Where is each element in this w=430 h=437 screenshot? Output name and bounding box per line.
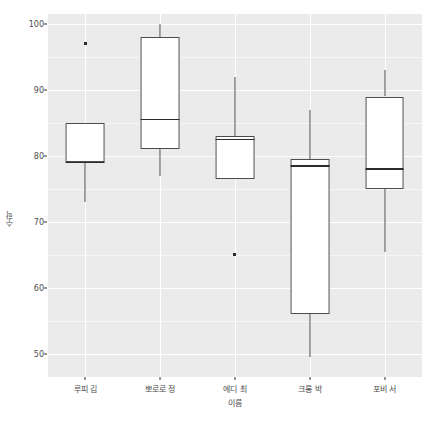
- y-axis-tick-mark: [44, 89, 47, 90]
- boxplot-box: [272, 14, 347, 377]
- boxplot-box: [347, 14, 422, 377]
- x-axis-tick-mark: [384, 377, 385, 380]
- whisker-lower: [85, 163, 86, 203]
- x-axis-tick-mark: [235, 377, 236, 380]
- whisker-lower: [309, 314, 310, 357]
- whisker-lower: [384, 189, 385, 252]
- outlier-point: [233, 253, 236, 256]
- whisker-upper: [384, 70, 385, 96]
- whisker-lower: [160, 149, 161, 175]
- whisker-upper: [309, 110, 310, 160]
- median-line: [216, 139, 255, 141]
- x-axis-tick-mark: [160, 377, 161, 380]
- box-iqr-rect: [365, 97, 404, 189]
- box-iqr-rect: [290, 159, 329, 314]
- median-line: [66, 162, 105, 164]
- y-axis-tick-mark: [44, 353, 47, 354]
- x-axis-tick-mark: [85, 377, 86, 380]
- x-axis-tick-mark: [309, 377, 310, 380]
- median-line: [365, 168, 404, 170]
- boxplot-box: [198, 14, 273, 377]
- whisker-upper: [160, 24, 161, 37]
- y-axis-tick-mark: [44, 23, 47, 24]
- y-axis-tick-label: 50: [34, 349, 44, 358]
- x-axis-title: 이름: [48, 397, 422, 408]
- y-axis-tick-label: 100: [29, 19, 44, 28]
- y-axis-tick-labels: 5060708090100: [14, 0, 44, 437]
- x-axis-tick-label: 뽀로로 정: [145, 383, 176, 394]
- y-axis-tick-label: 80: [34, 151, 44, 160]
- outlier-point: [84, 42, 87, 45]
- box-iqr-rect: [66, 123, 105, 163]
- median-line: [141, 119, 180, 121]
- plot-panel: [48, 14, 422, 377]
- y-axis-tick-mark: [44, 221, 47, 222]
- whisker-upper: [234, 77, 235, 136]
- x-axis-tick-label: 에디 최: [223, 383, 247, 394]
- x-axis-tick-label: 크롱 박: [298, 383, 322, 394]
- y-axis-tick-mark: [44, 155, 47, 156]
- y-axis-tick-mark: [44, 287, 47, 288]
- y-axis-tick-label: 90: [34, 85, 44, 94]
- boxplot-chart: 수학 5060708090100 루피 김뽀로로 정에디 최크롱 박포비 서 이…: [0, 0, 430, 437]
- x-axis-tick-label: 포비 서: [373, 383, 397, 394]
- boxplot-box: [48, 14, 123, 377]
- box-iqr-rect: [141, 37, 180, 149]
- box-iqr-rect: [216, 136, 255, 179]
- boxplot-box: [123, 14, 198, 377]
- y-axis-tick-label: 70: [34, 217, 44, 226]
- y-axis-tick-label: 60: [34, 283, 44, 292]
- median-line: [290, 165, 329, 167]
- x-axis-tick-label: 루피 김: [74, 383, 98, 394]
